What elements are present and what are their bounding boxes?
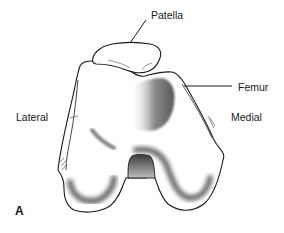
femur-label: Femur [238, 82, 268, 93]
medial-hatch [208, 116, 215, 128]
patella-leader-line [130, 20, 146, 43]
medial-label: Medial [231, 112, 262, 123]
lateral-label: Lateral [16, 112, 48, 123]
patella-label: Patella [151, 10, 183, 21]
intercondylar-notch [128, 155, 155, 179]
panel-label: A [15, 205, 24, 217]
